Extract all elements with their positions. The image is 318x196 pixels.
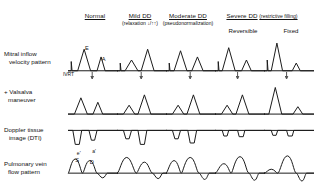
row-label-line1-dti: Doppler tissue xyxy=(4,126,44,133)
waveform-valsalva-fixed xyxy=(264,86,314,120)
waveform-mitral-normal: EA xyxy=(68,40,118,80)
wave-label-ivrt: IVRT xyxy=(63,71,74,77)
row-label-line1-pv: Pulmonary vein xyxy=(4,160,47,167)
waveform-dti-moderate xyxy=(166,122,216,150)
waveform-mitral-mild xyxy=(117,40,167,80)
column-subtitle-moderate: (pseudonormalization) xyxy=(128,20,248,28)
waveform-valsalva-mild xyxy=(117,86,167,120)
waveform-dti-normal: e'a' xyxy=(68,122,118,150)
waveform-mitral-reversible xyxy=(215,40,265,80)
row-label-mitral: Mitral inflowvelocity pattern xyxy=(4,50,51,66)
row-label-line2-mitral: velocity pattern xyxy=(4,58,51,66)
waveform-mitral-fixed xyxy=(264,40,314,80)
waveform-dti-reversible xyxy=(215,122,265,150)
row-label-line1-mitral: Mitral inflow xyxy=(4,50,37,57)
row-label-line1-valsalva: + Valsalva xyxy=(4,88,32,95)
waveform-dti-fixed xyxy=(264,122,314,150)
wave-label-pv-normal-1: D xyxy=(90,159,94,165)
row-label-pv: Pulmonary veinflow pattern xyxy=(4,160,47,176)
waveform-pv-mild xyxy=(117,148,167,192)
waveform-pv-reversible xyxy=(215,148,265,192)
row-label-line2-dti: image (DTI) xyxy=(4,134,44,142)
wave-label-mitral-normal-0: E xyxy=(85,45,89,51)
diagram-canvas: NormalMild DD(relaxation ↓/↑↑)Moderate D… xyxy=(0,0,318,196)
wave-label-pv-normal-0: S xyxy=(75,157,79,163)
column-subtitle-severe: (restrictive filling) xyxy=(259,13,297,19)
subcolumn-header-fixed: Fixed xyxy=(241,27,318,34)
waveform-pv-normal: SD xyxy=(68,148,118,192)
wave-label-mitral-normal-1: A xyxy=(102,56,106,62)
waveform-valsalva-normal xyxy=(68,86,118,120)
row-label-line2-pv: flow pattern xyxy=(4,168,47,176)
column-title-severe: Severe DD xyxy=(226,12,257,19)
waveform-valsalva-moderate xyxy=(166,86,216,120)
waveform-dti-mild xyxy=(117,122,167,150)
row-label-line2-valsalva: maneuver xyxy=(4,96,36,104)
waveform-mitral-moderate xyxy=(166,40,216,80)
waveform-valsalva-reversible xyxy=(215,86,265,120)
waveform-pv-moderate xyxy=(166,148,216,192)
row-label-valsalva: + Valsalvamaneuver xyxy=(4,88,36,104)
waveform-pv-fixed xyxy=(264,148,314,192)
row-label-dti: Doppler tissueimage (DTI) xyxy=(4,126,44,142)
column-header-severe: Severe DD (restrictive filling) xyxy=(202,12,318,21)
